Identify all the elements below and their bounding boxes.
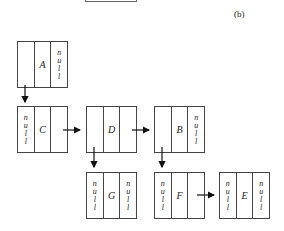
edge-arrows [0, 0, 284, 231]
